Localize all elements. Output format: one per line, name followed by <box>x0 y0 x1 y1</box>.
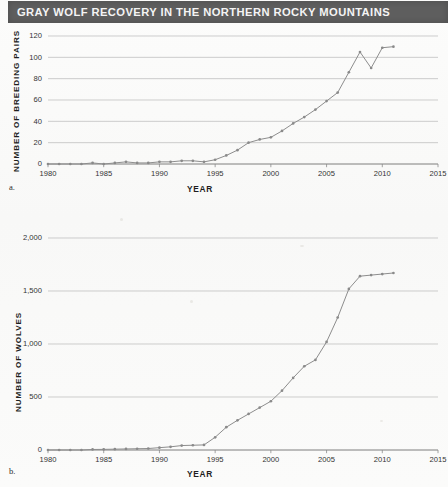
chart-a-x-tick-label: 1990 <box>144 169 174 178</box>
chart-a-y-tick-label: 40 <box>4 117 42 126</box>
chart-a-y-tick-label: 80 <box>4 74 42 83</box>
chart-a-x-axis-title: YEAR <box>150 184 250 194</box>
chart-b-panel-letter: b. <box>9 466 15 476</box>
chart-title-banner: GRAY WOLF RECOVERY IN THE NORTHERN ROCKY… <box>8 1 448 23</box>
chart-a-plot-area[interactable] <box>0 24 448 184</box>
chart-panel-a: NUMBER OF BREEDING PAIRS YEAR a. 0204060… <box>0 24 448 204</box>
chart-b-plot-area[interactable] <box>0 212 448 462</box>
chart-b-y-tick-label: 0 <box>4 445 42 454</box>
chart-a-x-tick-label: 1995 <box>200 169 230 178</box>
chart-b-x-tick-label: 2015 <box>423 455 448 464</box>
chart-a-x-tick-label: 2000 <box>256 169 286 178</box>
page-title: GRAY WOLF RECOVERY IN THE NORTHERN ROCKY… <box>8 6 390 18</box>
chart-b-x-tick-label: 2005 <box>312 455 342 464</box>
chart-b-x-tick-label: 1990 <box>144 455 174 464</box>
page-background: GRAY WOLF RECOVERY IN THE NORTHERN ROCKY… <box>0 0 448 487</box>
chart-a-x-tick-label: 2010 <box>367 169 397 178</box>
chart-a-y-tick-label: 120 <box>4 31 42 40</box>
chart-b-x-tick-label: 2010 <box>367 455 397 464</box>
chart-a-y-tick-label: 20 <box>4 138 42 147</box>
chart-a-y-tick-label: 0 <box>4 159 42 168</box>
chart-b-x-tick-label: 1985 <box>89 455 119 464</box>
chart-b-y-tick-label: 500 <box>4 392 42 401</box>
chart-b-y-tick-label: 1,500 <box>4 286 42 295</box>
chart-a-x-tick-label: 1980 <box>33 169 63 178</box>
chart-b-y-tick-label: 1,000 <box>4 339 42 348</box>
chart-panel-b: NUMBER OF WOLVES YEAR b. 05001,0001,5002… <box>0 212 448 487</box>
chart-b-x-tick-label: 1980 <box>33 455 63 464</box>
chart-b-x-axis-title: YEAR <box>150 469 250 479</box>
chart-a-y-tick-label: 60 <box>4 95 42 104</box>
chart-b-y-tick-label: 2,000 <box>4 233 42 242</box>
chart-b-x-tick-label: 2000 <box>256 455 286 464</box>
chart-b-x-tick-label: 1995 <box>200 455 230 464</box>
chart-a-y-tick-label: 100 <box>4 53 42 62</box>
chart-a-x-tick-label: 2015 <box>423 169 448 178</box>
chart-a-x-tick-label: 1985 <box>89 169 119 178</box>
chart-a-x-tick-label: 2005 <box>312 169 342 178</box>
